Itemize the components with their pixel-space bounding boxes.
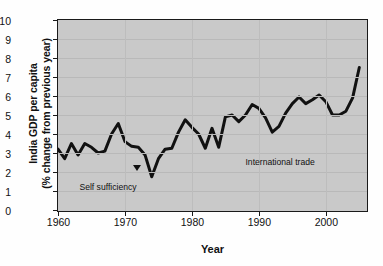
gridline-horizontal (58, 172, 367, 173)
y-axis-tick-label: 2 (0, 167, 11, 179)
y-axis-tick-label: 6 (0, 91, 11, 103)
x-axis-tick-label: 2000 (301, 216, 351, 228)
gridline-horizontal (58, 77, 367, 78)
y-axis-tick-label: 4 (0, 129, 11, 141)
y-axis-tick-label: 10 (0, 15, 11, 27)
figure-gdp-per-capita-chart: India GDP per capita (% change from prev… (0, 0, 383, 266)
y-axis-tick-label: 0 (0, 205, 11, 217)
x-axis-title: Year (57, 243, 368, 255)
gridline-horizontal (58, 58, 367, 59)
plot-area: Self sufficiency International trade (57, 19, 368, 212)
x-axis-tick-label: 1990 (234, 216, 284, 228)
y-axis-tick-label: 8 (0, 53, 11, 65)
gridline-vertical (326, 20, 327, 211)
x-axis-tick-label: 1960 (34, 216, 84, 228)
y-axis-tick-label: 7 (0, 72, 11, 84)
gridline-vertical (192, 20, 193, 211)
annotation-international-trade: International trade (245, 157, 314, 167)
gridline-horizontal (58, 96, 367, 97)
x-axis-tick-label: 1980 (167, 216, 217, 228)
gridline-vertical (259, 20, 260, 211)
y-axis-tick-label: 3 (0, 148, 11, 160)
gridline-horizontal (58, 115, 367, 116)
gridline-horizontal (58, 153, 367, 154)
y-axis-tick-label: 1 (0, 186, 11, 198)
gridline-horizontal (58, 134, 367, 135)
y-axis-tick-label: 5 (0, 110, 11, 122)
annotation-arrow-icon (133, 165, 141, 171)
x-axis-tick-label: 1970 (100, 216, 150, 228)
y-axis-tick-label: 9 (0, 34, 11, 46)
annotation-self-sufficiency: Self sufficiency (79, 182, 136, 192)
gridline-horizontal (58, 39, 367, 40)
